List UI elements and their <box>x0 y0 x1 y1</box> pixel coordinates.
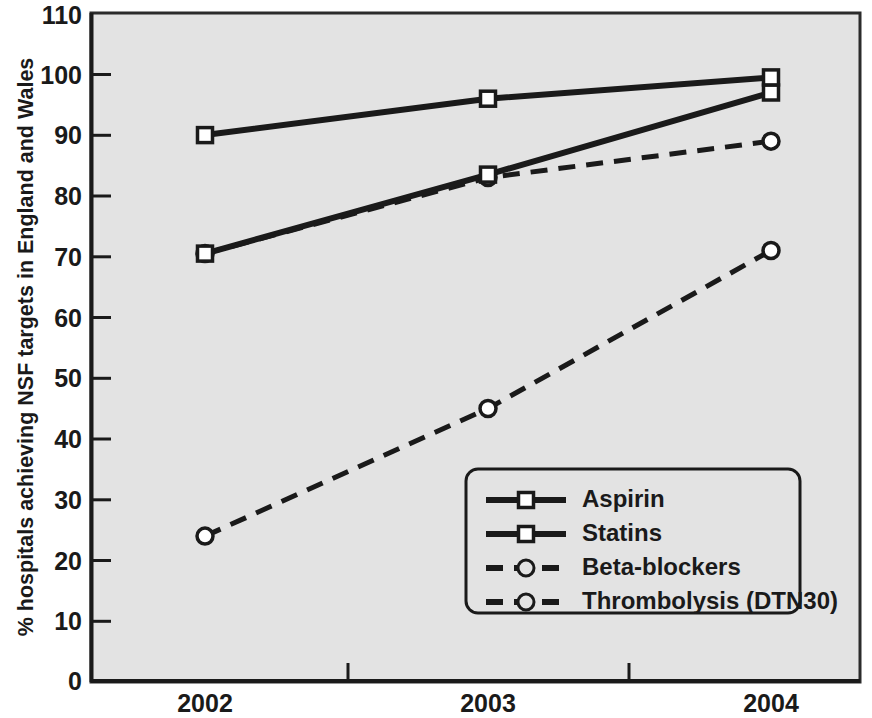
legend-circle-marker-icon <box>518 594 534 610</box>
x-tick-labels: 2002 2003 2004 <box>177 689 799 717</box>
data-point-marker <box>764 85 779 100</box>
data-point-marker <box>481 91 496 106</box>
legend-label-statins: Statins <box>582 519 662 546</box>
legend-label-aspirin: Aspirin <box>582 485 665 512</box>
data-point-marker <box>198 246 213 261</box>
legend-circle-marker-icon <box>518 560 534 576</box>
y-tick-label-70: 70 <box>54 243 82 271</box>
y-tick-label-0: 0 <box>68 667 82 695</box>
legend-label-beta-blockers: Beta-blockers <box>582 553 741 580</box>
y-tick-label-50: 50 <box>54 364 82 392</box>
legend-label-thrombolysis: Thrombolysis (DTN30) <box>582 587 838 614</box>
y-tick-label-40: 40 <box>54 425 82 453</box>
data-point-marker <box>197 528 213 544</box>
data-point-marker <box>198 128 213 143</box>
chart-legend: Aspirin Statins Beta-blockers Thrombolys… <box>466 469 838 614</box>
x-tick-label-2004: 2004 <box>743 689 799 717</box>
x-tick-label-2002: 2002 <box>177 689 233 717</box>
line-chart: 0 10 20 30 40 50 60 70 80 90 100 110 200… <box>0 0 872 718</box>
y-axis-title: % hospitals achieving NSF targets in Eng… <box>14 58 38 637</box>
y-tick-label-20: 20 <box>54 547 82 575</box>
data-point-marker <box>481 167 496 182</box>
y-tick-label-60: 60 <box>54 304 82 332</box>
data-point-marker <box>763 133 779 149</box>
y-tick-label-10: 10 <box>54 607 82 635</box>
y-tick-label-80: 80 <box>54 182 82 210</box>
legend-square-marker-icon <box>519 493 534 508</box>
y-tick-label-110: 110 <box>42 1 82 29</box>
data-point-marker <box>480 401 496 417</box>
legend-square-marker-icon <box>519 527 534 542</box>
data-point-marker <box>763 243 779 259</box>
y-tick-label-100: 100 <box>40 61 82 89</box>
x-tick-label-2003: 2003 <box>460 689 516 717</box>
chart-figure: 0 10 20 30 40 50 60 70 80 90 100 110 200… <box>0 0 872 718</box>
y-tick-label-30: 30 <box>54 486 82 514</box>
y-tick-label-90: 90 <box>54 121 82 149</box>
data-point-marker <box>764 70 779 85</box>
y-tick-labels: 0 10 20 30 40 50 60 70 80 90 100 110 <box>40 1 82 695</box>
